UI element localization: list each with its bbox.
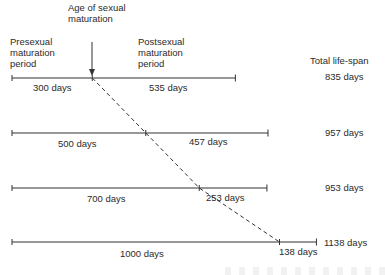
maturation-dashed-connector	[92, 78, 279, 242]
maturation-arrow	[89, 42, 95, 76]
maturation-arrow-label: Age of sexual maturation	[68, 2, 126, 24]
total-days-row2: 957 days	[325, 127, 364, 138]
presexual-period-label: Presexual maturation period	[10, 36, 55, 69]
total-days-row3: 953 days	[325, 182, 364, 193]
total-days-row4: 1138 days	[324, 237, 367, 248]
postsexual-days-row1: 535 days	[149, 82, 188, 93]
presexual-days-row4: 1000 days	[120, 248, 164, 259]
postsexual-days-row3: 253 days	[206, 192, 245, 203]
presexual-days-row3: 700 days	[87, 193, 126, 204]
total-lifespan-header: Total life-span	[310, 55, 369, 66]
total-days-row1: 835 days	[325, 71, 364, 82]
postsexual-days-row2: 457 days	[189, 136, 228, 147]
postsexual-period-label: Postsexual maturation period	[138, 36, 184, 69]
postsexual-days-row4: 138 days	[279, 246, 318, 257]
cropped-caption-text	[225, 267, 385, 275]
presexual-days-row2: 500 days	[58, 138, 97, 149]
presexual-days-row1: 300 days	[33, 82, 72, 93]
